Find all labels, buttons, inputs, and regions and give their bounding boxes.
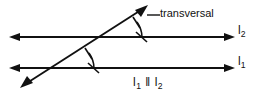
angle-mark-upper: [133, 17, 147, 42]
line-l1-label: l1: [238, 55, 245, 70]
angle-tick-upper-a: [133, 17, 140, 28]
parallel-caption: l1 ‖ l2: [133, 76, 163, 91]
line-l2-label-subscript: 2: [241, 29, 246, 39]
geometry-figure: transversal l2 l1 l1 ‖ l2: [0, 0, 260, 94]
transversal-line: [20, 5, 148, 88]
line-l1: [9, 64, 235, 72]
caption-right-subscript: 2: [158, 81, 163, 91]
transversal-label: transversal: [160, 8, 214, 19]
angle-tick-lower-a: [85, 48, 92, 59]
transversal-segment: [27, 10, 141, 83]
line-l1-right-arrowhead: [224, 64, 235, 72]
line-l2: [9, 33, 235, 41]
figure-canvas: [0, 0, 260, 94]
angle-mark-lower: [85, 48, 99, 73]
line-l1-label-subscript: 1: [241, 60, 246, 70]
transversal-upper-arrowhead: [135, 5, 148, 17]
line-l1-left-arrowhead: [9, 64, 20, 72]
transversal-lower-arrowhead: [20, 76, 33, 88]
line-l2-label: l2: [238, 24, 245, 39]
line-l2-right-arrowhead: [224, 33, 235, 41]
line-l2-left-arrowhead: [9, 33, 20, 41]
